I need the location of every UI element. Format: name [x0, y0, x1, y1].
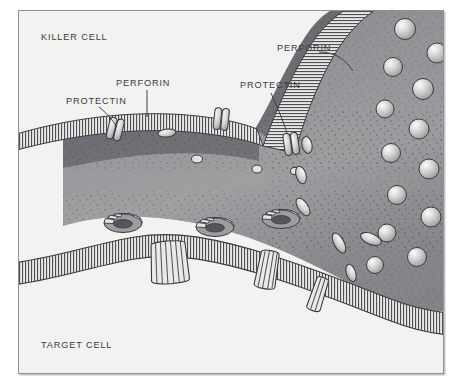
perforin-pore-top-view	[262, 209, 300, 228]
perforin-pore-top-view	[196, 217, 234, 236]
label-killer-cell: KILLER CELL	[41, 33, 108, 42]
label-perforin-left: PERFORIN	[116, 79, 170, 88]
figure-root: KILLER CELL TARGET CELL PROTECTIN PERFOR…	[0, 0, 460, 386]
perforin-pore-top-view	[104, 213, 142, 232]
label-protectin-left: PROTECTIN	[66, 97, 127, 106]
illustration-plate: KILLER CELL TARGET CELL PROTECTIN PERFOR…	[18, 10, 444, 374]
label-protectin-right: PROTECTIN	[240, 81, 301, 90]
protectin-right	[283, 132, 301, 156]
label-perforin-right: PERFORIN	[277, 44, 331, 53]
perforin-pore-cross-section	[149, 239, 190, 285]
protectin-mid	[213, 107, 230, 130]
label-target-cell: TARGET CELL	[41, 341, 112, 350]
cell-illustration	[19, 11, 443, 373]
